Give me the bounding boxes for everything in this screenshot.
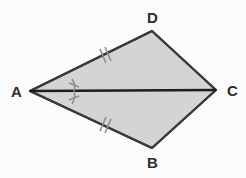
vertex-label-c: C xyxy=(227,83,238,98)
geometry-figure: A D C B xyxy=(0,0,246,178)
diagonal-ac xyxy=(31,90,215,91)
geometry-canvas xyxy=(0,0,246,178)
vertex-label-d: D xyxy=(147,10,158,25)
vertex-label-a: A xyxy=(11,84,22,99)
vertex-label-b: B xyxy=(147,155,158,170)
